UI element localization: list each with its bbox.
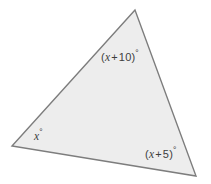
angle-label-top-constant: 10 (119, 51, 132, 63)
triangle-svg (0, 0, 211, 184)
degree-symbol-icon-left: ° (39, 127, 43, 137)
angle-label-top-operator: + (110, 51, 119, 63)
degree-symbol-icon-top: ° (135, 48, 139, 58)
degree-symbol-icon-right: ° (173, 145, 177, 155)
angle-label-bottom-left-vertex: x° (34, 131, 43, 143)
angle-label-bottom-right-vertex: (x+5)° (145, 149, 177, 161)
triangle-figure: (x+10)° x° (x+5)° (0, 0, 211, 184)
angle-label-right-operator: + (154, 148, 163, 160)
angle-label-top-vertex: (x+10)° (101, 52, 139, 64)
